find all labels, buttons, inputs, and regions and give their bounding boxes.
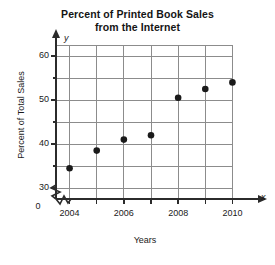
y-axis-letter: y [64, 33, 69, 43]
y-tick-label: 30 [27, 182, 49, 192]
x-tick-label: 2008 [161, 208, 195, 218]
x-tick-label: 2006 [107, 208, 141, 218]
y-tick-label: 40 [27, 138, 49, 148]
origin-label: 0 [30, 201, 46, 211]
gridlines [56, 45, 232, 199]
x-axis-letter: x [261, 192, 266, 202]
data-point [148, 132, 155, 139]
chart-plot-area [0, 0, 275, 265]
data-point [93, 147, 100, 154]
y-tick-label: 50 [27, 94, 49, 104]
x-tick-label: 2010 [215, 208, 249, 218]
chart-container: Percent of Printed Book Sales from the I… [0, 0, 275, 265]
data-point [121, 136, 128, 143]
data-point [202, 86, 209, 93]
data-point [175, 95, 182, 102]
x-tick-label: 2004 [53, 208, 87, 218]
data-point [66, 165, 73, 172]
y-axis-arrowhead [52, 29, 60, 38]
data-point [229, 79, 236, 86]
axis-lines [51, 29, 267, 204]
x-axis-break-icon [56, 196, 71, 204]
y-tick-label: 60 [27, 50, 49, 60]
